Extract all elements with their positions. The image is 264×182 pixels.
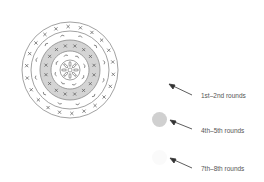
legend-label-rounds-1-2: 1st–2nd rounds [201,92,246,99]
round-diagram [0,0,264,182]
center-rosette-ring [60,60,80,80]
outer-ring [22,22,118,118]
legend-label-rounds-4-5: 4th–5th rounds [201,127,244,134]
legend-label-rounds-7-8: 7th–8th rounds [201,165,244,172]
concentric-rings [22,22,118,118]
arrowhead-2 [170,120,176,125]
arrowhead-1 [169,84,175,89]
center-rosette [61,61,78,78]
legend-arrows [169,84,192,168]
center-dot [68,68,72,72]
gray-band [40,40,100,100]
arrowhead-3 [170,158,176,163]
swatch-rounds-4-5 [152,112,167,127]
outer-x-stitches [25,25,115,115]
swatch-rounds-7-8 [152,150,167,165]
